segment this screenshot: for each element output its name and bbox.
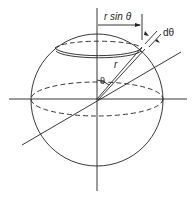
spherical-shell-diagram: r sin θ dθ r θ <box>0 0 195 197</box>
dtheta-line-1 <box>145 31 157 44</box>
latitude-ring-front-inner <box>56 51 141 58</box>
latitude-ring-front-outer <box>55 48 142 56</box>
label-theta: θ <box>100 76 105 86</box>
label-r: r <box>114 59 118 70</box>
sphere-figure: r sin θ dθ r θ <box>0 0 195 197</box>
arrowhead-right-icon <box>135 23 141 27</box>
dtheta-arrow-in-icon <box>144 31 149 36</box>
label-r-sin-theta: r sin θ <box>104 11 132 22</box>
diagonal-axis <box>22 52 181 145</box>
label-d-theta: dθ <box>163 27 175 38</box>
dtheta-line-2 <box>149 34 161 47</box>
